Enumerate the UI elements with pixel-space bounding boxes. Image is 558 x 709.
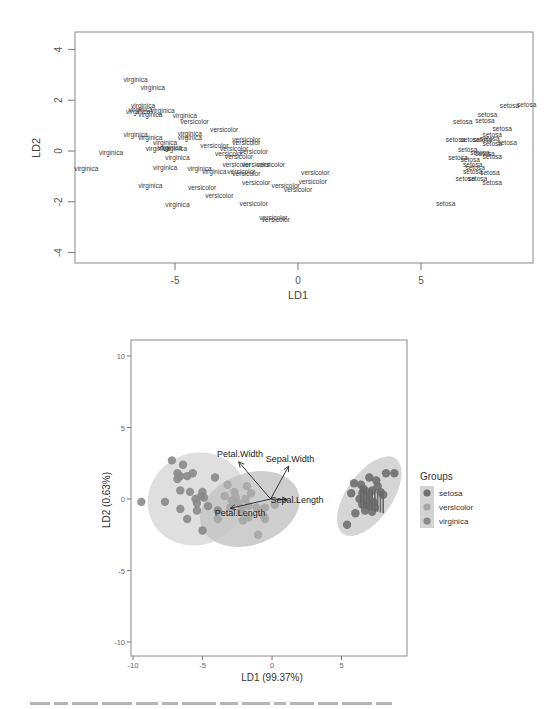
point-label-versicolor: versicolor	[299, 178, 328, 185]
x-tick-label: 5	[339, 661, 343, 670]
point-virginica	[211, 473, 219, 481]
point-virginica	[176, 486, 184, 494]
x-tick-label: 0	[270, 661, 274, 670]
point-versicolor	[261, 515, 269, 523]
point-versicolor	[247, 489, 255, 497]
point-label-versicolor: versicolor	[242, 179, 271, 186]
plot2-biplot-arrows: Petal.WidthSepal.WidthSepal.LengthPetal.…	[215, 449, 324, 518]
y-tick-label: -10	[114, 638, 125, 647]
point-label-versicolor: versicolor	[232, 170, 261, 177]
arrowhead-icon	[284, 466, 289, 472]
point-label-versicolor: versicolor	[240, 200, 269, 207]
arrow-sepal-width	[271, 466, 289, 499]
point-setosa	[372, 476, 380, 484]
point-virginica	[173, 475, 181, 483]
point-setosa	[382, 469, 390, 477]
point-versicolor	[221, 492, 229, 500]
legend-label-setosa: setosa	[439, 489, 463, 498]
arrow-label: Petal.Width	[217, 449, 263, 459]
point-setosa	[355, 495, 363, 503]
point-virginica	[193, 499, 201, 507]
point-setosa	[390, 469, 398, 477]
ellipse-virginica	[132, 436, 261, 561]
point-versicolor	[230, 488, 238, 496]
plot1-y-axis: -4-2024	[53, 46, 75, 257]
point-label-setosa: setosa	[483, 140, 503, 147]
point-label-setosa: setosa	[475, 117, 495, 124]
y-tick-label: -5	[118, 567, 125, 576]
point-label-virginica: virginica	[138, 111, 163, 119]
y-tick-label: 0	[53, 148, 64, 154]
point-label-setosa: setosa	[436, 200, 456, 207]
point-setosa	[376, 488, 384, 496]
point-setosa	[371, 503, 379, 511]
point-label-versicolor: versicolor	[284, 186, 313, 193]
plot1-x-axis: -505	[171, 263, 425, 286]
point-label-setosa: setosa	[483, 179, 503, 186]
arrowhead-icon	[239, 462, 245, 468]
point-virginica	[183, 515, 191, 523]
arrow-sepal-length	[271, 499, 288, 500]
plot2-y-axis-label: LD2 (0.63%)	[101, 472, 112, 528]
plot2-legend: Groups setosaversicolorvirginica	[420, 471, 474, 528]
arrow-label: Petal.Length	[215, 508, 266, 518]
ellipse-versicolor	[189, 458, 310, 560]
point-setosa	[351, 509, 359, 517]
point-setosa	[350, 479, 358, 487]
point-setosa	[379, 491, 387, 499]
point-setosa	[368, 486, 376, 494]
point-virginica	[168, 456, 176, 464]
point-setosa	[358, 489, 366, 497]
x-tick-label: 5	[418, 275, 424, 286]
y-tick-label: 0	[121, 495, 125, 504]
legend-label-versicolor: versicolor	[439, 503, 474, 512]
point-label-setosa: setosa	[483, 153, 503, 160]
x-tick-label: -5	[199, 661, 206, 670]
legend-key-bg	[420, 500, 434, 514]
x-tick-label: -5	[171, 275, 180, 286]
point-setosa	[365, 502, 373, 510]
point-virginica	[183, 472, 191, 480]
plot1-y-axis-label: LD2	[30, 138, 42, 158]
clipped-caption-line	[30, 702, 410, 709]
point-label-versicolor: versicolor	[210, 126, 239, 133]
legend-swatch-setosa	[423, 489, 430, 496]
legend-swatch-virginica	[423, 517, 430, 524]
point-versicolor	[239, 516, 247, 524]
point-label-virginica: virginica	[163, 145, 188, 153]
point-virginica	[200, 493, 208, 501]
point-setosa	[362, 496, 370, 504]
point-label-setosa: setosa	[453, 118, 473, 125]
arrow-petal-width	[239, 462, 271, 499]
arrow-petal-length	[230, 499, 270, 508]
point-setosa	[361, 506, 369, 514]
y-tick-label: 10	[117, 352, 125, 361]
arrowhead-icon	[230, 505, 236, 510]
point-setosa	[368, 508, 376, 516]
point-versicolor	[244, 513, 252, 521]
point-label-virginica: virginica	[165, 154, 190, 162]
point-virginica	[173, 469, 181, 477]
point-label-virginica: virginica	[153, 164, 178, 172]
point-versicolor	[237, 505, 245, 513]
point-versicolor	[214, 515, 222, 523]
point-setosa	[360, 485, 368, 493]
y-tick-label: 2	[53, 97, 64, 103]
arrow-label: Sepal.Width	[266, 454, 315, 464]
plot2-points	[137, 456, 398, 539]
plot2-frame	[131, 340, 407, 656]
point-virginica	[193, 506, 201, 514]
plot1-x-axis-label: LD1	[288, 289, 308, 300]
point-label-versicolor: versicolor	[262, 216, 291, 223]
y-tick-label: -2	[53, 197, 64, 206]
point-label-virginica: virginica	[138, 182, 163, 190]
point-versicolor	[244, 502, 252, 510]
point-versicolor	[241, 495, 249, 503]
point-virginica	[186, 488, 194, 496]
x-tick-label: 0	[295, 275, 301, 286]
legend-swatch-versicolor	[423, 503, 430, 510]
plot2-x-axis-label: LD1 (99.37%)	[241, 672, 303, 683]
point-label-virginica: virginica	[165, 201, 190, 209]
point-setosa	[358, 501, 366, 509]
point-versicolor	[271, 501, 279, 509]
